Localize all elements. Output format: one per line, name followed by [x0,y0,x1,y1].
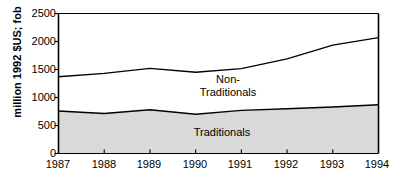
x-tick-label-1988: 1988 [84,159,124,170]
series-label-non-traditionals: Non- Traditionals [188,73,268,98]
y-axis-tick-labels: 2500 2000 1500 1000 500 0 [0,0,56,182]
series-label-traditionals: Traditionals [182,126,262,139]
x-tick-label-1992: 1992 [266,159,306,170]
y-tick-label-2000: 2000 [22,36,56,47]
y-tick-label-1000: 1000 [22,92,56,103]
x-tick-label-1991: 1991 [220,159,260,170]
x-tick-label-1989: 1989 [129,159,169,170]
x-tick-label-1987: 1987 [38,159,78,170]
x-tick-label-1993: 1993 [312,159,352,170]
x-tick-label-1990: 1990 [175,159,215,170]
y-tick-label-1500: 1500 [22,64,56,75]
y-tick-label-500: 500 [22,120,56,131]
y-tick-label-2500: 2500 [22,8,56,19]
chart-container: million 1992 $US; fob 2500 2000 1500 100… [0,0,394,182]
x-tick-label-1994: 1994 [357,159,394,170]
